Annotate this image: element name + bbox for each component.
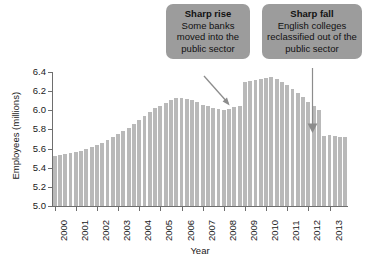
sharp-rise-arrow-icon (204, 76, 230, 106)
annotation-arrows (0, 0, 366, 262)
bar-chart: Employees (millions) 5.05.25.45.65.86.06… (0, 0, 366, 262)
sharp-fall-arrow-icon (308, 68, 318, 133)
